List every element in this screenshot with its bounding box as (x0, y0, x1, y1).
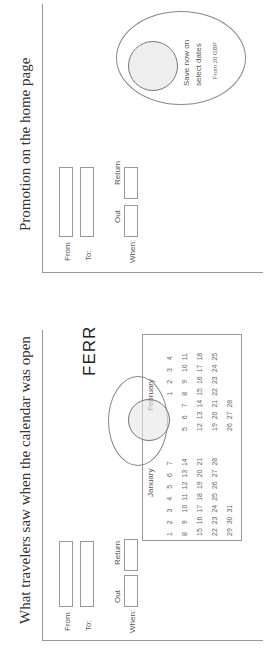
to-input[interactable] (80, 541, 94, 607)
promo-return-label: Return (113, 161, 122, 185)
month-january: January (146, 469, 155, 497)
return-date-input[interactable] (124, 539, 138, 571)
out-label: Out (113, 590, 122, 603)
return-label: Return (113, 541, 122, 565)
promo-when-label: When: (128, 240, 137, 263)
promo-out-label: Out (113, 210, 122, 223)
january-week-5[interactable]: 29 30 31 (226, 505, 233, 536)
january-week-4[interactable]: 22 23 24 25 26 27 28 (211, 458, 218, 536)
when-label: When: (128, 610, 137, 633)
attention-focus-circle (128, 399, 170, 441)
promo-headline-1[interactable]: Save now on (182, 40, 192, 86)
to-label: To: (84, 620, 93, 631)
panel-title-promo: Promotion on the home page (17, 58, 34, 231)
from-input[interactable] (59, 541, 73, 607)
promo-price: From 20 GBP (212, 42, 218, 79)
brand-logo: FERR (80, 326, 100, 376)
promo-focus-circle (128, 41, 178, 91)
panel-title-calendar: What travelers saw when the calendar was… (17, 336, 34, 624)
promo-to-label: To: (84, 250, 93, 261)
rotated-canvas: What travelers saw when the calendar was… (0, 0, 269, 651)
february-week-4[interactable]: 19 20 21 22 23 24 25 (211, 353, 218, 431)
out-date-input[interactable] (124, 575, 138, 607)
promo-out-date-input[interactable] (124, 205, 138, 237)
january-week-2[interactable]: 8 9 10 11 12 13 14 (181, 458, 188, 536)
february-week-5[interactable]: 26 27 28 (226, 400, 233, 431)
promo-headline-2[interactable]: select dates (194, 43, 204, 86)
february-week-2[interactable]: 5 6 7 8 9 10 11 (181, 353, 188, 431)
promo-from-label: From (63, 242, 72, 261)
january-week-1[interactable]: 1 2 3 4 5 6 7 (166, 461, 173, 536)
from-label: From (63, 612, 72, 631)
promo-from-input[interactable] (59, 167, 73, 237)
promo-return-date-input[interactable] (124, 167, 138, 199)
promo-to-input[interactable] (80, 167, 94, 237)
january-week-3[interactable]: 15 16 17 18 19 20 21 (196, 458, 203, 536)
february-week-3[interactable]: 12 13 14 15 16 17 18 (196, 353, 203, 431)
